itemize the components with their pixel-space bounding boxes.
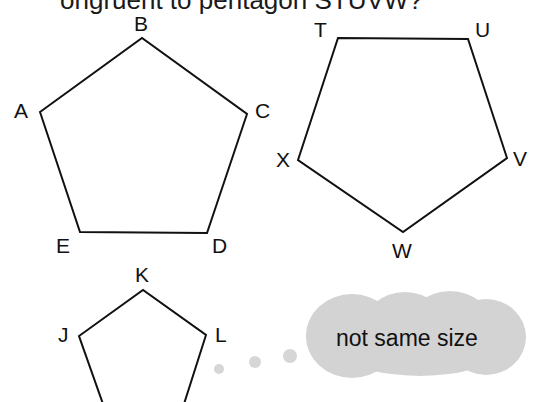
vertex-label-v: V [513,147,527,170]
vertex-label-j: J [58,323,69,346]
vertex-label-a: A [14,99,28,122]
pentagon-tuvwx: T U V W X [276,18,527,262]
pentagon-abcde: B A C E D [14,12,270,257]
bubble-dot-medium [249,356,261,368]
vertex-label-k: K [135,263,149,286]
pentagon-tuvwx-outline [298,38,507,232]
vertex-label-e: E [56,234,70,257]
vertex-label-d: D [212,234,227,257]
vertex-label-u: U [475,18,490,41]
vertex-label-x: X [276,148,290,171]
bubble-dot-large [283,349,297,363]
pentagon-jkl-outline [79,290,206,402]
bubble-dot-small [214,364,224,374]
vertex-label-l: L [215,323,227,346]
diagram-canvas: B A C E D T U V W X K J L not same size [0,0,535,402]
thought-bubble-text: not same size [336,325,478,351]
pentagon-abcde-outline [40,38,247,233]
vertex-label-w: W [392,239,412,262]
pentagon-jkl: K J L [58,263,227,402]
vertex-label-b: B [134,12,148,35]
vertex-label-t: T [314,18,327,41]
vertex-label-c: C [255,99,270,122]
thought-bubble: not same size [214,291,526,378]
